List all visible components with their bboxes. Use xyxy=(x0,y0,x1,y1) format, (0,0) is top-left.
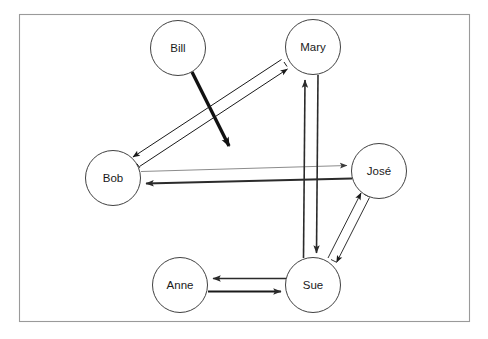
edge-bob-mary xyxy=(133,60,288,168)
node-circle-jose[interactable] xyxy=(352,144,407,199)
node-bob[interactable]: Bob xyxy=(86,151,141,206)
node-mary[interactable]: Mary xyxy=(286,20,341,75)
node-circle-mary[interactable] xyxy=(286,20,341,75)
node-circle-anne[interactable] xyxy=(153,258,208,313)
node-circle-sue[interactable] xyxy=(286,258,341,313)
node-jose[interactable]: José xyxy=(352,144,407,199)
edge-bob-jose xyxy=(141,166,347,172)
node-bill[interactable]: Bill xyxy=(151,21,206,76)
graph-canvas: Bill Mary Bob José Sue Anne xyxy=(0,0,488,339)
node-circle-bill[interactable] xyxy=(151,21,206,76)
edge-jose-bob xyxy=(146,179,352,184)
edge-mary-sue xyxy=(317,75,319,253)
edge-bill-out xyxy=(192,72,229,146)
edge-jose-sue xyxy=(328,193,370,263)
diagram-container: Bill Mary Bob José Sue Anne xyxy=(0,0,488,339)
edge-sue-mary xyxy=(304,80,306,258)
node-anne[interactable]: Anne xyxy=(153,258,208,313)
node-sue[interactable]: Sue xyxy=(286,258,341,313)
node-circle-bob[interactable] xyxy=(86,151,141,206)
